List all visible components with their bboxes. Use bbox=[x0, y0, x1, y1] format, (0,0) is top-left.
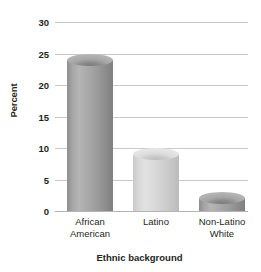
y-axis-title: Percent bbox=[8, 66, 19, 136]
bar-shape bbox=[67, 60, 113, 211]
bar-latino[interactable] bbox=[133, 22, 179, 211]
bar-cap-icon bbox=[67, 54, 113, 66]
x-axis-title: Ethnic background bbox=[0, 252, 261, 263]
y-tick-label-15: 15 bbox=[38, 111, 49, 122]
bar-non-latino-white[interactable] bbox=[199, 22, 245, 211]
y-tick-label-30: 30 bbox=[38, 17, 49, 28]
y-tick-label-5: 5 bbox=[44, 174, 49, 185]
bar-chart: Percent 30 25 20 15 10 5 0 bbox=[0, 0, 261, 272]
bar-shape bbox=[133, 154, 179, 211]
bar-foot bbox=[133, 210, 179, 212]
bar-body bbox=[133, 154, 179, 211]
bar-foot bbox=[67, 210, 113, 212]
x-tick-label-line-1: Non-Latino bbox=[179, 216, 261, 228]
y-tick-label-25: 25 bbox=[38, 48, 49, 59]
bar-shape bbox=[199, 198, 245, 211]
x-axis-category-labels: African American Latino Non-Latino White bbox=[55, 216, 248, 250]
bar-body bbox=[67, 60, 113, 211]
x-tick-label-line-2: American bbox=[47, 228, 133, 240]
bar-foot bbox=[199, 210, 245, 212]
y-tick-label-20: 20 bbox=[38, 80, 49, 91]
y-tick-label-10: 10 bbox=[38, 143, 49, 154]
x-tick-label-non-latino-white: Non-Latino White bbox=[179, 216, 261, 239]
x-tick-label-line-2: White bbox=[179, 228, 261, 240]
bar-african-american[interactable] bbox=[67, 22, 113, 211]
y-tick-label-0: 0 bbox=[44, 206, 49, 217]
plot-area: 30 25 20 15 10 5 0 bbox=[55, 22, 248, 211]
bars-layer bbox=[55, 22, 248, 211]
